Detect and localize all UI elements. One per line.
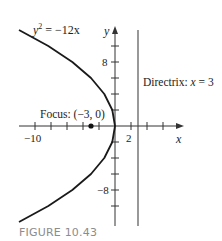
- x-tick-label-neg10: −10: [24, 132, 42, 144]
- directrix-label: Directrix: x = 3: [143, 76, 214, 88]
- y-axis-arrow-icon: [112, 26, 118, 34]
- y-tick-label-neg8: −8: [97, 184, 109, 196]
- x-tick-label-2: 2: [126, 132, 132, 144]
- y-tick-label-8: 8: [102, 56, 108, 68]
- parabola-plot: y2 = −12x y x Focus: (−3, 0) Directrix: …: [0, 0, 222, 241]
- focus-label: Focus: (−3, 0): [40, 108, 105, 121]
- x-axis-label: x: [175, 132, 182, 146]
- x-axis-arrow-icon: [176, 123, 184, 129]
- equation-label: y2 = −12x: [32, 22, 80, 37]
- y-axis-label: y: [103, 24, 110, 38]
- figure-caption: FIGURE 10.43: [19, 226, 97, 239]
- focus-point: [88, 123, 93, 128]
